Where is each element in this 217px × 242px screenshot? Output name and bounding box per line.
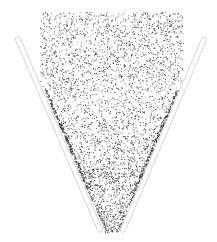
left-wall <box>15 36 104 233</box>
right-wall <box>120 36 208 233</box>
particles <box>40 12 184 233</box>
funnel-walls <box>15 36 208 233</box>
particle-funnel-scene <box>0 0 217 242</box>
